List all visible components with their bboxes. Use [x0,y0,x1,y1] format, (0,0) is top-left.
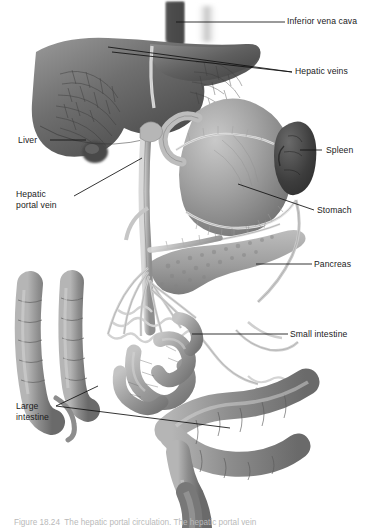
label-spleen: Spleen [326,145,353,156]
label-hepatic-portal-vein: Hepatic portal vein [16,189,57,210]
figure-caption: Figure 18.24 The hepatic portal circulat… [14,518,364,528]
label-large-intestine: Large intestine [16,401,49,422]
label-stomach: Stomach [317,205,352,216]
label-liver: Liver [18,135,37,146]
label-hepatic-veins: Hepatic veins [295,66,348,77]
leader-hepatic-portal-vein [74,158,142,196]
large-intestine-sigmoid [168,382,308,528]
label-small-intestine: Small intestine [290,329,347,340]
inferior-vena-cava-structure [166,2,218,46]
spleen-structure [274,121,316,195]
label-pancreas: Pancreas [314,259,351,270]
anatomy-figure: Inferior vena cava Hepatic veins Liver S… [0,0,376,528]
label-inferior-vena-cava: Inferior vena cava [287,16,357,27]
